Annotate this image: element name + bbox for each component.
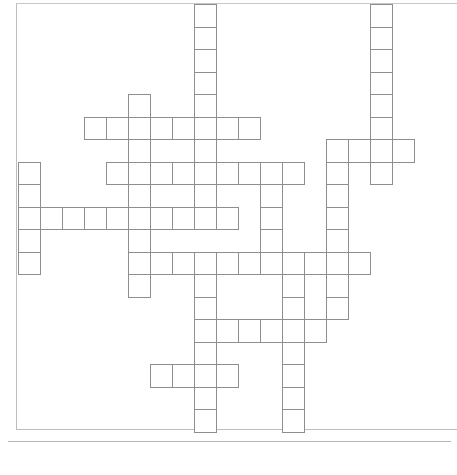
crossword-cell[interactable] bbox=[216, 319, 239, 343]
crossword-cell[interactable] bbox=[172, 207, 195, 231]
crossword-cell[interactable] bbox=[238, 162, 261, 186]
crossword-cell[interactable] bbox=[326, 184, 349, 208]
crossword-cell[interactable] bbox=[238, 319, 261, 343]
crossword-cell[interactable] bbox=[326, 162, 349, 186]
crossword-cell[interactable] bbox=[370, 117, 393, 141]
crossword-cell[interactable] bbox=[282, 364, 305, 388]
crossword-cell[interactable] bbox=[216, 252, 239, 276]
crossword-cell[interactable] bbox=[282, 274, 305, 298]
crossword-cell[interactable] bbox=[194, 139, 217, 163]
crossword-cell[interactable] bbox=[370, 4, 393, 28]
crossword-cell[interactable] bbox=[194, 94, 217, 118]
crossword-cell[interactable] bbox=[62, 207, 85, 231]
crossword-cell[interactable] bbox=[238, 252, 261, 276]
crossword-cell[interactable] bbox=[326, 252, 349, 276]
crossword-cell[interactable] bbox=[194, 297, 217, 321]
crossword-cell[interactable] bbox=[370, 27, 393, 51]
crossword-cell[interactable] bbox=[282, 319, 305, 343]
crossword-cell[interactable] bbox=[326, 229, 349, 253]
crossword-cell[interactable] bbox=[106, 162, 129, 186]
crossword-cell[interactable] bbox=[194, 184, 217, 208]
crossword-cell[interactable] bbox=[370, 49, 393, 73]
crossword-cell[interactable] bbox=[282, 297, 305, 321]
crossword-cell[interactable] bbox=[128, 117, 151, 141]
crossword-cell[interactable] bbox=[194, 274, 217, 298]
crossword-cell[interactable] bbox=[172, 117, 195, 141]
crossword-cell[interactable] bbox=[282, 342, 305, 366]
crossword-cell[interactable] bbox=[106, 207, 129, 231]
crossword-cell[interactable] bbox=[18, 229, 41, 253]
crossword-cell[interactable] bbox=[84, 117, 107, 141]
crossword-cell[interactable] bbox=[128, 252, 151, 276]
crossword-cell[interactable] bbox=[216, 207, 239, 231]
crossword-cell[interactable] bbox=[260, 207, 283, 231]
crossword-cell[interactable] bbox=[150, 117, 173, 141]
crossword-cell[interactable] bbox=[84, 207, 107, 231]
crossword-cell[interactable] bbox=[194, 342, 217, 366]
crossword-cell[interactable] bbox=[282, 409, 305, 433]
crossword-cell[interactable] bbox=[128, 139, 151, 163]
crossword-cell[interactable] bbox=[18, 207, 41, 231]
crossword-cell[interactable] bbox=[370, 72, 393, 96]
crossword-cell[interactable] bbox=[194, 72, 217, 96]
crossword-cell[interactable] bbox=[194, 162, 217, 186]
crossword-cell[interactable] bbox=[216, 162, 239, 186]
crossword-cell[interactable] bbox=[128, 162, 151, 186]
crossword-cell[interactable] bbox=[194, 207, 217, 231]
crossword-cell[interactable] bbox=[106, 117, 129, 141]
crossword-cell[interactable] bbox=[150, 364, 173, 388]
crossword-cell[interactable] bbox=[194, 319, 217, 343]
crossword-cell[interactable] bbox=[326, 274, 349, 298]
crossword-cell[interactable] bbox=[128, 274, 151, 298]
crossword-cell[interactable] bbox=[194, 27, 217, 51]
crossword-cell[interactable] bbox=[304, 252, 327, 276]
crossword-cell[interactable] bbox=[172, 162, 195, 186]
crossword-cell[interactable] bbox=[40, 207, 63, 231]
crossword-cell[interactable] bbox=[128, 229, 151, 253]
crossword-cell[interactable] bbox=[238, 117, 261, 141]
crossword-cell[interactable] bbox=[128, 184, 151, 208]
crossword-cell[interactable] bbox=[194, 409, 217, 433]
crossword-cell[interactable] bbox=[348, 252, 371, 276]
crossword-cell[interactable] bbox=[260, 162, 283, 186]
crossword-cell[interactable] bbox=[392, 139, 415, 163]
crossword-cell[interactable] bbox=[128, 207, 151, 231]
crossword-cell[interactable] bbox=[150, 207, 173, 231]
crossword-cell[interactable] bbox=[282, 252, 305, 276]
crossword-cell[interactable] bbox=[216, 364, 239, 388]
crossword-cell[interactable] bbox=[172, 364, 195, 388]
crossword-cell[interactable] bbox=[304, 319, 327, 343]
crossword-cell[interactable] bbox=[18, 162, 41, 186]
crossword-cell[interactable] bbox=[194, 49, 217, 73]
crossword-cell[interactable] bbox=[260, 252, 283, 276]
crossword-cell[interactable] bbox=[326, 207, 349, 231]
crossword-cell[interactable] bbox=[18, 184, 41, 208]
crossword-cell[interactable] bbox=[370, 162, 393, 186]
crossword-cell[interactable] bbox=[370, 94, 393, 118]
crossword-cell[interactable] bbox=[172, 252, 195, 276]
crossword-cell[interactable] bbox=[216, 117, 239, 141]
crossword-cell[interactable] bbox=[326, 139, 349, 163]
crossword-cell[interactable] bbox=[18, 252, 41, 276]
crossword-cell[interactable] bbox=[260, 319, 283, 343]
crossword-cell[interactable] bbox=[194, 4, 217, 28]
crossword-cell[interactable] bbox=[194, 252, 217, 276]
crossword-cell[interactable] bbox=[194, 117, 217, 141]
crossword-cell[interactable] bbox=[282, 162, 305, 186]
crossword-cell[interactable] bbox=[260, 229, 283, 253]
crossword-cell[interactable] bbox=[326, 297, 349, 321]
crossword-cell[interactable] bbox=[370, 139, 393, 163]
crossword-cell[interactable] bbox=[348, 139, 371, 163]
crossword-cell[interactable] bbox=[194, 364, 217, 388]
crossword-cell[interactable] bbox=[150, 252, 173, 276]
crossword-cell[interactable] bbox=[260, 184, 283, 208]
crossword-cell[interactable] bbox=[282, 387, 305, 411]
crossword-cell[interactable] bbox=[128, 94, 151, 118]
crossword-cell[interactable] bbox=[150, 162, 173, 186]
crossword-cell[interactable] bbox=[194, 387, 217, 411]
